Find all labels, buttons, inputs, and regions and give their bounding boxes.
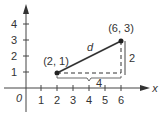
y-tick-label: 4 — [11, 18, 17, 30]
x-axis-label: x — [151, 82, 158, 94]
point-6-3 — [119, 39, 124, 44]
origin-label: 0 — [16, 92, 23, 104]
x-tick-label: 6 — [118, 94, 124, 106]
point-label-2-1: (2, 1) — [43, 55, 69, 67]
vertical-leg-label: 2 — [129, 52, 135, 64]
horizontal-brace — [57, 76, 121, 81]
point-label-6-3: (6, 3) — [108, 22, 134, 34]
x-tick-label: 1 — [38, 94, 44, 106]
x-tick-label: 4 — [86, 94, 92, 106]
distance-diagram: 1 2 3 4 5 6 1 2 3 4 0 x (2, 1) (6, 3) d … — [0, 0, 160, 119]
x-tick-label: 5 — [102, 94, 108, 106]
horizontal-leg-label: 4 — [96, 77, 102, 89]
y-tick-label: 3 — [11, 34, 17, 46]
x-tick-label: 2 — [54, 94, 60, 106]
y-tick-label: 2 — [11, 50, 17, 62]
x-tick-label: 3 — [70, 94, 76, 106]
point-2-1 — [55, 71, 60, 76]
y-tick-label: 1 — [11, 66, 17, 78]
segment-label-d: d — [87, 41, 94, 53]
x-axis-arrow-icon — [140, 85, 150, 91]
y-axis-arrow-icon — [23, 4, 29, 14]
